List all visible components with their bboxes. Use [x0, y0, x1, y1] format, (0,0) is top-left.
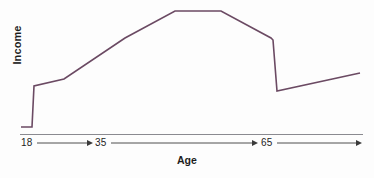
x-tick-label-18: 18	[21, 137, 32, 148]
income-curve	[21, 11, 360, 127]
axis-arrow-35-65-head	[252, 140, 258, 146]
x-tick-label-35: 35	[95, 137, 106, 148]
axis-arrow-18-35-head	[87, 140, 93, 146]
x-axis-label: Age	[0, 154, 374, 166]
x-tick-label-65: 65	[261, 137, 272, 148]
chart-plot-area	[0, 0, 374, 178]
income-vs-age-chart: Income 18 35 65 Age	[0, 0, 374, 178]
axis-arrow-65-onward-head	[356, 140, 362, 146]
